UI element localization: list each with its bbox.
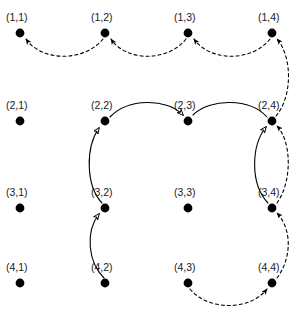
node-label-4-2: (4,2) [91,262,113,273]
graph-figure: (1,1)(1,2)(1,3)(1,4)(2,1)(2,2)(2,3)(2,4)… [0,0,305,332]
node-label-1-1: (1,1) [6,12,28,23]
node-4-4[interactable] [268,279,277,288]
node-label-4-3: (4,3) [174,262,196,273]
node-label-2-2: (2,2) [91,100,113,111]
node-label-2-3: (2,3) [174,100,196,111]
node-1-3[interactable] [184,29,193,38]
edges-layer [26,39,289,306]
edge-12-to-11 [26,39,103,56]
node-label-2-4: (2,4) [258,100,280,111]
node-label-1-3: (1,3) [174,12,196,23]
node-label-3-1: (3,1) [6,187,28,198]
node-3-4[interactable] [268,204,277,213]
node-label-2-1: (2,1) [6,100,28,111]
node-1-1[interactable] [16,29,25,38]
edge-24-to-23 [193,102,267,117]
node-1-4[interactable] [268,29,277,38]
node-4-2[interactable] [101,279,110,288]
node-1-2[interactable] [101,29,110,38]
edge-13-to-12 [111,39,186,56]
edge-43-to-44 [190,289,267,306]
node-label-3-2: (3,2) [91,187,113,198]
node-3-2[interactable] [101,204,110,213]
node-2-3[interactable] [184,117,193,126]
node-2-2[interactable] [101,117,110,126]
graph-canvas [0,0,305,332]
node-label-3-3: (3,3) [174,187,196,198]
node-label-1-2: (1,2) [91,12,113,23]
node-label-3-4: (3,4) [258,187,280,198]
nodes-layer [16,29,277,288]
node-label-4-4: (4,4) [258,262,280,273]
node-3-1[interactable] [16,204,25,213]
edge-14-to-13 [194,39,270,56]
node-2-1[interactable] [16,117,25,126]
node-3-3[interactable] [184,204,193,213]
node-4-3[interactable] [184,279,193,288]
node-label-4-1: (4,1) [6,262,28,273]
node-label-1-4: (1,4) [258,12,280,23]
node-4-1[interactable] [16,279,25,288]
edge-22-to-23 [110,102,183,117]
node-2-4[interactable] [268,117,277,126]
